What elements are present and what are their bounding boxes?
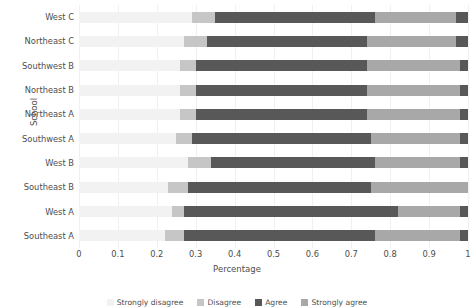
bar-row[interactable] (79, 60, 468, 71)
bar-row[interactable] (79, 206, 468, 217)
legend-label: Strongly disagree (117, 299, 184, 307)
x-axis-tick-label: 0.4 (228, 249, 241, 259)
bar-segment[interactable] (398, 206, 460, 217)
bar-segment[interactable] (79, 182, 168, 193)
bar-segment[interactable] (192, 12, 215, 23)
bar-segment[interactable] (180, 85, 196, 96)
bar-segment[interactable] (196, 109, 367, 120)
bar-segment[interactable] (460, 60, 468, 71)
bar-row[interactable] (79, 36, 468, 47)
y-axis-category-label: Southeast A (24, 232, 74, 240)
legend-item[interactable]: Disagree (197, 299, 241, 307)
y-axis-category-label: Southwest A (22, 134, 74, 142)
grid-line (468, 5, 469, 248)
bar-segment[interactable] (79, 206, 172, 217)
bar-segment[interactable] (168, 182, 187, 193)
bar-segment[interactable] (176, 133, 192, 144)
bar-segment[interactable] (367, 85, 460, 96)
bar-segment[interactable] (375, 12, 457, 23)
legend-swatch (197, 299, 204, 306)
bar-segment[interactable] (375, 230, 461, 241)
legend-item[interactable]: Strongly disagree (107, 299, 184, 307)
bar-segment[interactable] (207, 36, 366, 47)
bar-row[interactable] (79, 85, 468, 96)
bar-row[interactable] (79, 157, 468, 168)
bar-segment[interactable] (211, 157, 374, 168)
legend-label: Agree (265, 299, 287, 307)
bar-segment[interactable] (460, 85, 468, 96)
bar-row[interactable] (79, 109, 468, 120)
y-axis-category-label: Northeast C (25, 37, 74, 45)
bar-segment[interactable] (79, 60, 180, 71)
bar-segment[interactable] (180, 60, 196, 71)
bar-segment[interactable] (367, 36, 456, 47)
legend-label: Disagree (207, 299, 241, 307)
legend-item[interactable]: Agree (255, 299, 287, 307)
x-axis-tick-label: 0 (76, 249, 81, 259)
bar-segment[interactable] (172, 206, 184, 217)
bar-row[interactable] (79, 133, 468, 144)
chart-legend: Strongly disagreeDisagreeAgreeStrongly a… (0, 299, 474, 307)
bar-segment[interactable] (196, 60, 367, 71)
x-axis-tick-label: 0.8 (384, 249, 397, 259)
bar-row[interactable] (79, 12, 468, 23)
bar-segment[interactable] (367, 60, 460, 71)
y-axis-category-label: West B (45, 159, 74, 167)
bar-segment[interactable] (460, 133, 468, 144)
x-axis-tick-label: 0.5 (267, 249, 280, 259)
x-axis-tick-label: 1 (465, 249, 470, 259)
bar-segment[interactable] (180, 109, 196, 120)
bar-segment[interactable] (79, 36, 184, 47)
bar-segment[interactable] (184, 230, 375, 241)
legend-label: Strongly agree (311, 299, 367, 307)
bar-segment[interactable] (460, 230, 468, 241)
bar-segment[interactable] (196, 85, 367, 96)
x-axis-tick-label: 0.2 (150, 249, 163, 259)
bar-segment[interactable] (460, 157, 468, 168)
bar-segment[interactable] (79, 85, 180, 96)
x-axis-tick-label: 0.3 (189, 249, 202, 259)
bar-segment[interactable] (192, 133, 371, 144)
plot-area: West CNortheast CSouthwest BNortheast BN… (79, 5, 468, 248)
bar-segment[interactable] (79, 109, 180, 120)
legend-swatch (107, 299, 114, 306)
bar-segment[interactable] (367, 109, 460, 120)
bar-segment[interactable] (460, 206, 468, 217)
bar-segment[interactable] (456, 12, 468, 23)
bar-segment[interactable] (371, 133, 460, 144)
x-axis-tick-label: 0.6 (306, 249, 319, 259)
bar-segment[interactable] (79, 157, 188, 168)
bar-row[interactable] (79, 230, 468, 241)
y-axis-category-label: Northeast A (25, 110, 74, 118)
y-axis-category-label: Northeast B (25, 86, 74, 94)
bar-segment[interactable] (165, 230, 184, 241)
legend-swatch (255, 299, 262, 306)
bar-segment[interactable] (375, 157, 461, 168)
bar-row[interactable] (79, 182, 468, 193)
bar-segment[interactable] (215, 12, 374, 23)
bar-segment[interactable] (184, 36, 207, 47)
stacked-bar-chart: School West CNortheast CSouthwest BNorth… (0, 0, 474, 307)
bar-segment[interactable] (188, 157, 211, 168)
bar-segment[interactable] (456, 36, 468, 47)
y-axis-category-label: West A (45, 207, 74, 215)
bar-segment[interactable] (371, 182, 468, 193)
legend-swatch (301, 299, 308, 306)
x-axis-tick-label: 0.7 (345, 249, 358, 259)
y-axis-category-label: Southwest B (22, 62, 74, 70)
x-axis-tick-label: 0.9 (422, 249, 435, 259)
bar-segment[interactable] (188, 182, 371, 193)
bar-segment[interactable] (79, 230, 165, 241)
bar-segment[interactable] (79, 12, 192, 23)
bar-segment[interactable] (184, 206, 398, 217)
bar-segment[interactable] (79, 133, 176, 144)
x-axis-title: Percentage (0, 264, 474, 274)
y-axis-category-label: West C (45, 13, 74, 21)
legend-item[interactable]: Strongly agree (301, 299, 367, 307)
y-axis-category-label: Southeast B (24, 183, 74, 191)
x-axis-tick-label: 0.1 (111, 249, 124, 259)
bar-segment[interactable] (460, 109, 468, 120)
